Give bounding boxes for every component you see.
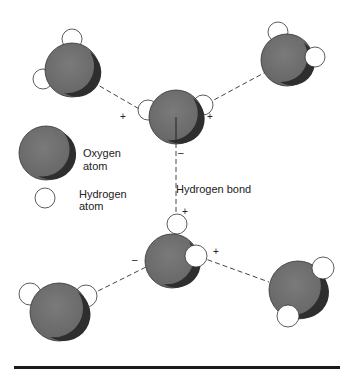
legend-hydrogen-swatch [35,188,55,208]
water-molecule-center [138,90,213,144]
minus-sign: – [132,254,138,265]
hydrogen-atom [305,47,325,67]
hydrogen-atom [277,305,299,327]
water-molecule-bottom-left [19,283,97,341]
water-molecule-bottom-center [145,214,207,288]
plus-sign: + [182,206,188,217]
plus-sign: + [207,111,213,122]
legend-oxygen-label-line1: Oxygen [83,147,121,159]
legend: Oxygen atom Hydrogen atom [19,126,127,212]
water-molecule-top-left [33,29,101,97]
hydrogen-atom [185,245,207,267]
legend-hydrogen-label-line2: atom [79,200,103,212]
legend-hydrogen-label-line1: Hydrogen [79,188,127,200]
water-hydrogen-bond-diagram: Oxygen atom Hydrogen atom Hydrogen bond … [0,0,353,369]
plus-sign: + [120,111,126,122]
hydrogen-atom [312,257,334,279]
hydrogen-atom [167,214,187,234]
minus-sign: – [178,147,184,158]
bond-bottomcenter-bottomright [200,257,269,282]
legend-oxygen-label-line2: atom [83,160,107,172]
water-molecule-bottom-right [269,257,334,327]
hydrogen-bond-label: Hydrogen bond [176,183,251,195]
water-molecule-top-right [261,22,325,86]
plus-sign: + [213,246,219,257]
